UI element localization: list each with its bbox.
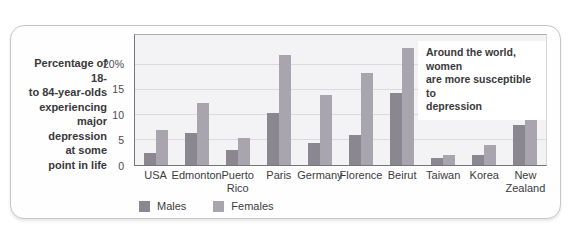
males-bar	[226, 150, 238, 165]
legend-item-females: Females	[213, 200, 273, 212]
legend-swatch-icon	[139, 201, 150, 212]
y-tick-label: 5	[92, 134, 124, 147]
plot-area: USAEdmontonPuerto RicoParisGermanyFloren…	[134, 34, 547, 166]
females-bar	[320, 95, 332, 165]
annotation-box: Around the world, women are more suscept…	[418, 41, 546, 120]
males-bar	[472, 155, 484, 165]
figure-card: Percentage of 18- to 84-year-olds experi…	[10, 25, 561, 219]
legend: MalesFemales	[139, 200, 274, 212]
males-bar	[308, 143, 320, 166]
males-bar	[144, 153, 156, 166]
bar-group-5: Germany	[308, 35, 332, 165]
males-bar	[267, 113, 279, 166]
females-bar	[197, 103, 209, 166]
females-bar	[402, 48, 414, 166]
males-bar	[349, 135, 361, 165]
bar-group-1: USA	[144, 35, 168, 165]
females-bar	[361, 73, 373, 166]
bar-group-2: Edmonton	[185, 35, 209, 165]
y-axis-labels: 20%151050	[96, 34, 128, 166]
males-bar	[185, 133, 197, 166]
y-tick-label: 15	[92, 83, 124, 96]
females-bar	[156, 130, 168, 165]
legend-label: Males	[157, 200, 186, 212]
bar-group-7: Beirut	[390, 35, 414, 165]
females-bar	[279, 55, 291, 165]
bar-group-6: Florence	[349, 35, 373, 165]
males-bar	[513, 125, 525, 165]
males-bar	[390, 93, 402, 166]
y-tick-label: 10	[92, 109, 124, 122]
males-bar	[431, 158, 443, 166]
legend-swatch-icon	[213, 201, 224, 212]
females-bar	[443, 155, 455, 165]
females-bar	[484, 145, 496, 165]
bar-group-3: Puerto Rico	[226, 35, 250, 165]
legend-label: Females	[231, 200, 273, 212]
bar-group-4: Paris	[267, 35, 291, 165]
figure: Percentage of 18- to 84-year-olds experi…	[0, 0, 576, 225]
females-bar	[238, 138, 250, 166]
x-axis-label: New Zealand	[489, 169, 561, 194]
legend-item-males: Males	[139, 200, 186, 212]
y-tick-label: 20%	[92, 58, 124, 71]
